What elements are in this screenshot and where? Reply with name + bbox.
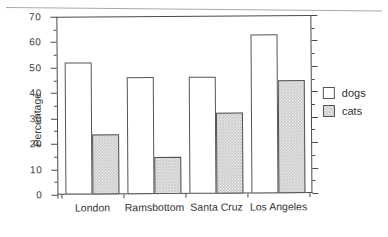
bar-los-angeles-cats bbox=[278, 80, 306, 193]
y-tick-20: 20 bbox=[51, 144, 57, 145]
y-tick-right-20 bbox=[312, 142, 318, 143]
legend-entry-dogs: dogs bbox=[323, 87, 366, 99]
x-label-los-angeles: Los Angeles bbox=[250, 200, 307, 212]
x-tick-2b bbox=[185, 194, 186, 198]
x-tick-0 bbox=[61, 195, 62, 199]
y-tick-label-30: 30 bbox=[30, 113, 42, 124]
y-minor-tick-5 bbox=[54, 182, 57, 183]
y-tick-label-20: 20 bbox=[30, 138, 42, 149]
x-tick-1 bbox=[123, 194, 124, 198]
legend-entry-cats: cats bbox=[323, 105, 366, 117]
y-tick-right-70 bbox=[311, 15, 317, 16]
y-minor-tick-35 bbox=[54, 106, 57, 107]
y-minor-tick-15 bbox=[54, 157, 57, 158]
y-tick-40: 40 bbox=[51, 93, 57, 94]
y-tick-10: 10 bbox=[51, 169, 57, 170]
legend-swatch-cats-icon bbox=[323, 105, 335, 117]
y-tick-label-50: 50 bbox=[29, 62, 41, 73]
y-tick-right-0 bbox=[312, 193, 318, 194]
y-minor-tick-right-25 bbox=[312, 129, 315, 130]
y-minor-tick-right-15 bbox=[312, 155, 315, 156]
y-tick-right-30 bbox=[312, 117, 318, 118]
bar-santa-cruz-cats bbox=[216, 112, 243, 194]
x-tick-4 bbox=[309, 193, 310, 197]
y-minor-tick-right-55 bbox=[312, 53, 315, 54]
bar-santa-cruz-dogs bbox=[189, 77, 217, 194]
y-minor-tick-25 bbox=[54, 131, 57, 132]
x-label-santa-cruz: Santa Cruz bbox=[190, 200, 243, 212]
legend-swatch-dogs-icon bbox=[323, 87, 335, 99]
legend-label-dogs: dogs bbox=[342, 87, 366, 99]
bar-london-dogs bbox=[65, 62, 93, 194]
y-minor-tick-right-45 bbox=[312, 79, 315, 80]
y-tick-right-60 bbox=[312, 40, 318, 41]
y-minor-tick-65 bbox=[53, 29, 56, 30]
y-tick-label-40: 40 bbox=[29, 88, 41, 99]
x-label-ramsbottom: Ramsbottom bbox=[125, 201, 185, 213]
y-tick-right-10 bbox=[312, 168, 318, 169]
y-tick-right-50 bbox=[312, 66, 318, 67]
chart-legend: dogs cats bbox=[323, 87, 366, 117]
y-minor-tick-55 bbox=[54, 55, 57, 56]
y-minor-tick-right-5 bbox=[312, 180, 315, 181]
bar-los-angeles-dogs bbox=[250, 34, 278, 193]
y-tick-60: 60 bbox=[51, 42, 57, 43]
y-minor-tick-right-35 bbox=[312, 104, 315, 105]
bar-london-cats bbox=[92, 135, 119, 195]
plot-area: 0 10 20 30 40 50 60 70 bbox=[56, 15, 312, 195]
y-minor-tick-right-65 bbox=[311, 28, 314, 29]
bar-ramsbottom-cats bbox=[154, 157, 181, 194]
y-tick-70: 70 bbox=[50, 17, 56, 18]
y-tick-right-40 bbox=[312, 91, 318, 92]
y-tick-50: 50 bbox=[51, 68, 57, 69]
y-minor-tick-45 bbox=[54, 80, 57, 81]
bar-ramsbottom-dogs bbox=[127, 77, 155, 194]
x-tick-3 bbox=[247, 193, 248, 197]
x-tick-2 bbox=[57, 195, 58, 199]
legend-label-cats: cats bbox=[342, 105, 362, 117]
bar-chart-figure: Percentage 0 10 20 30 40 50 60 70 bbox=[0, 0, 388, 237]
plot-frame-top bbox=[56, 15, 311, 18]
y-tick-label-10: 10 bbox=[30, 164, 42, 175]
y-tick-label-70: 70 bbox=[29, 11, 41, 22]
y-tick-30: 30 bbox=[51, 118, 57, 119]
y-tick-label-60: 60 bbox=[29, 37, 41, 48]
x-label-london: London bbox=[75, 201, 110, 213]
y-tick-label-0: 0 bbox=[36, 189, 42, 200]
